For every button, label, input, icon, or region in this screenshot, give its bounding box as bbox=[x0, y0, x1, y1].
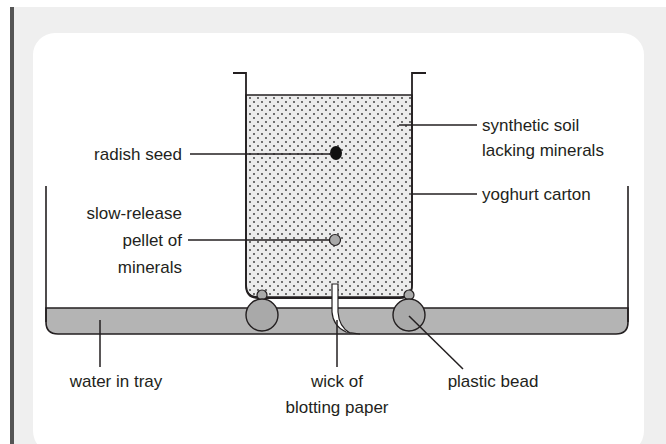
label-radish-seed: radish seed bbox=[94, 145, 182, 164]
label-water-in-tray: water in tray bbox=[69, 372, 163, 391]
label-wick-line1: wick of bbox=[310, 372, 363, 391]
label-pellet-line3: minerals bbox=[118, 258, 182, 277]
carton-soil bbox=[246, 95, 412, 297]
label-soil-line1: synthetic soil bbox=[482, 116, 579, 135]
label-soil-line2: lacking minerals bbox=[482, 141, 604, 160]
apparatus-diagram: radish seed slow-release pellet of miner… bbox=[0, 0, 666, 444]
radish-seed-dot bbox=[330, 146, 342, 160]
mineral-pellet-dot bbox=[330, 235, 341, 246]
label-wick-line2: blotting paper bbox=[285, 398, 388, 417]
label-plastic-bead: plastic bead bbox=[448, 372, 539, 391]
label-pellet-line1: slow-release bbox=[87, 204, 182, 223]
label-pellet-line2: pellet of bbox=[122, 231, 182, 250]
label-yoghurt-carton: yoghurt carton bbox=[482, 185, 591, 204]
